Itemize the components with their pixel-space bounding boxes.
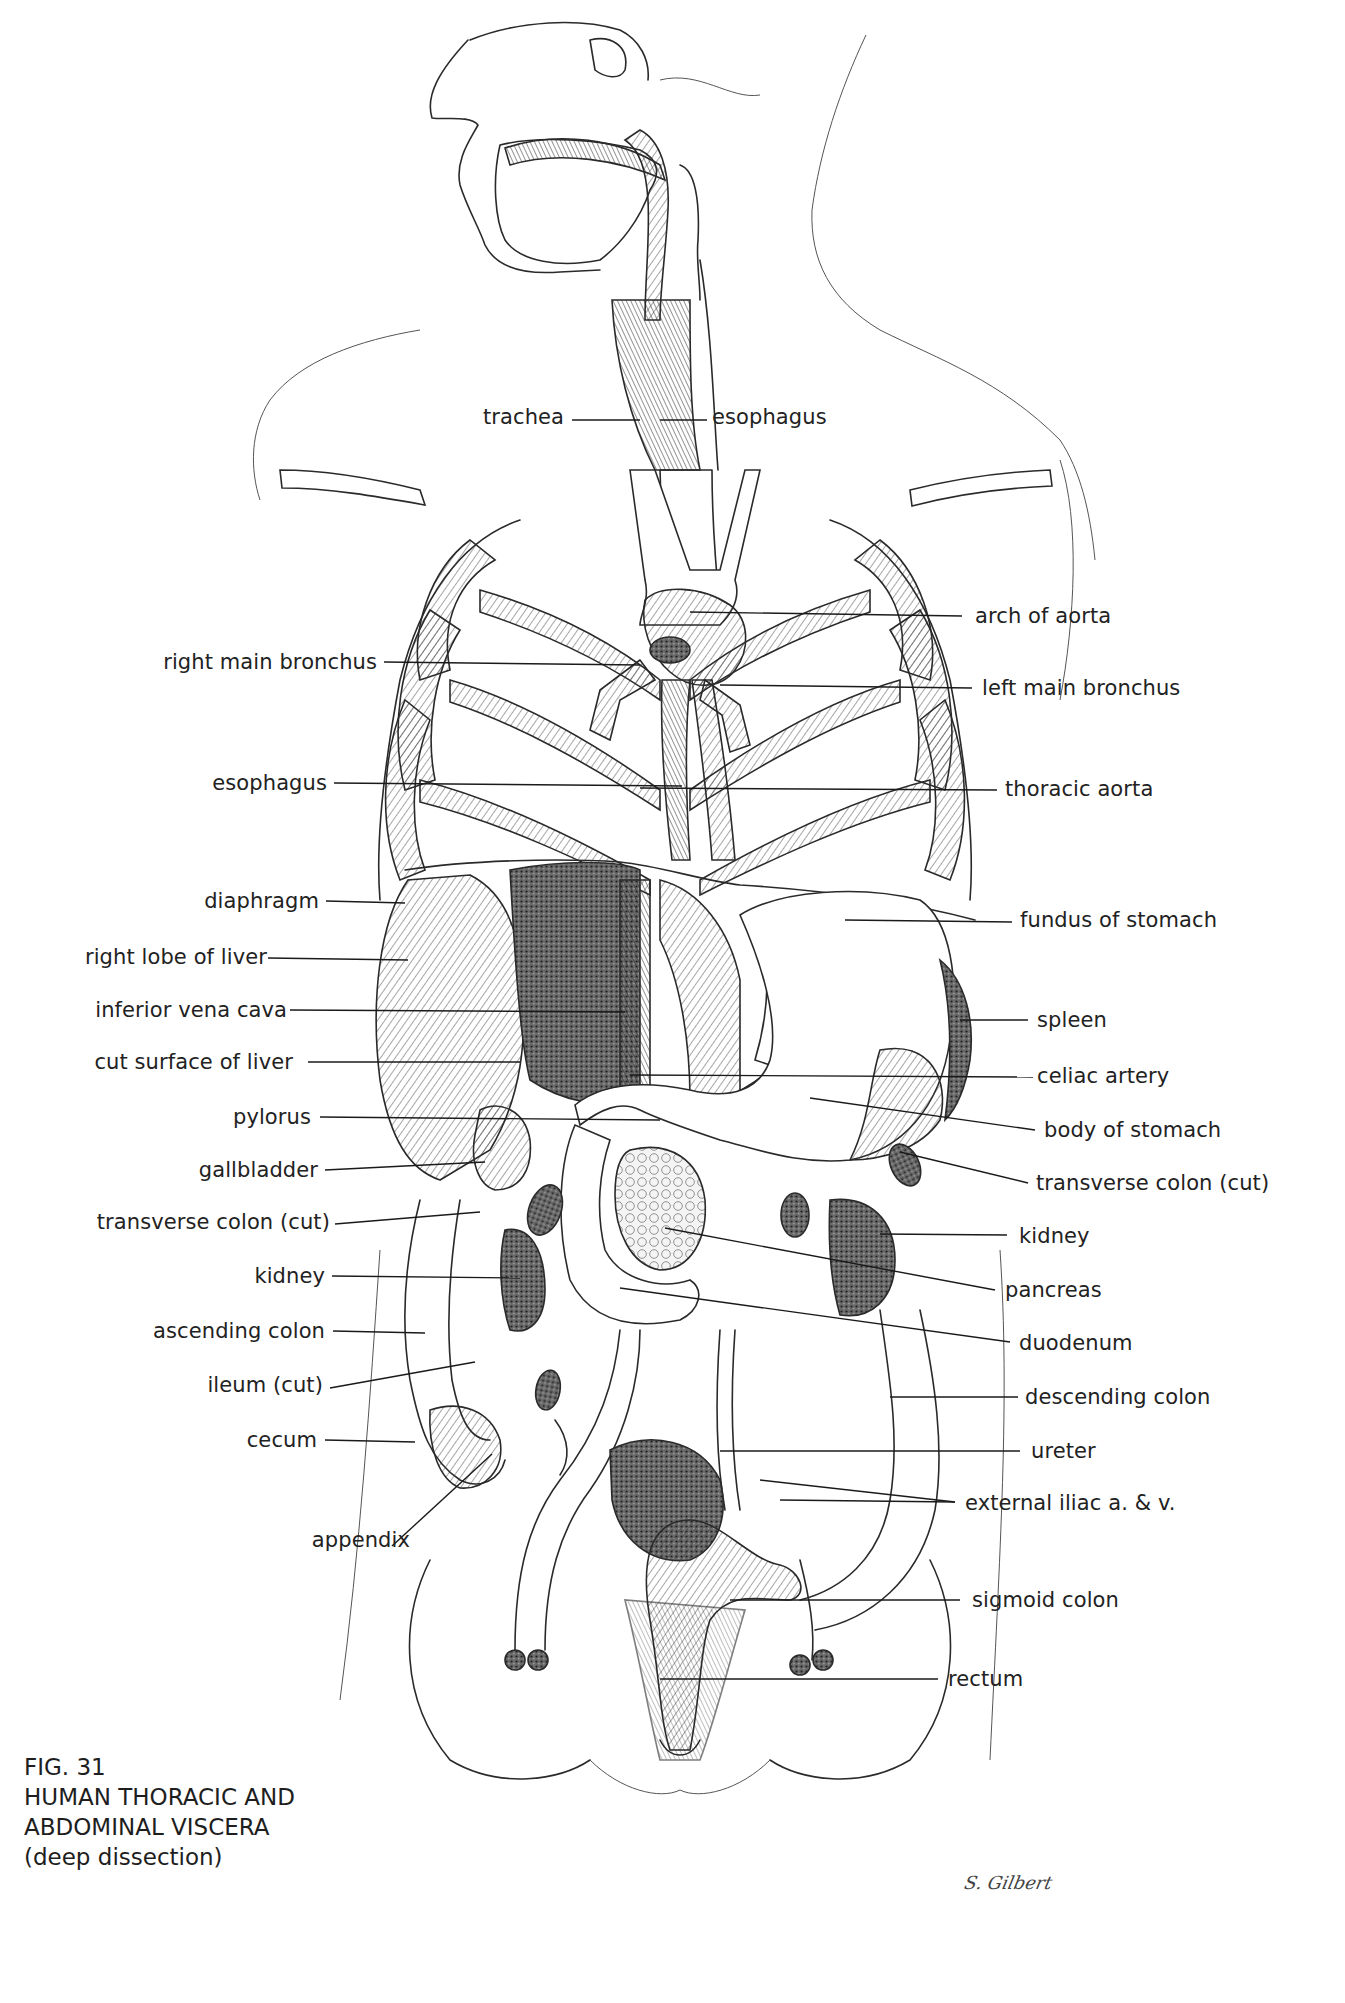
label-diaphragm: diaphragm (204, 889, 319, 913)
leader-line-external-iliac-v (780, 1500, 955, 1502)
figure-subtitle: (deep dissection) (24, 1842, 295, 1872)
label-descending-colon: descending colon (1025, 1385, 1210, 1409)
label-spleen: spleen (1037, 1008, 1107, 1032)
sigmoid-rectum (625, 1520, 801, 1760)
leader-line-transverse-colon-cut-left (335, 1212, 480, 1224)
leader-line-diaphragm (326, 901, 405, 903)
label-gallbladder: gallbladder (199, 1158, 318, 1182)
leader-line-kidney-left (332, 1276, 520, 1278)
leader-line-kidney-right (880, 1234, 1007, 1235)
label-esophagus-top: esophagus (712, 405, 827, 429)
label-arch-of-aorta: arch of aorta (975, 604, 1111, 628)
figure-caption: FIG. 31 HUMAN THORACIC AND ABDOMINAL VIS… (24, 1752, 295, 1872)
label-transverse-colon-cut-right: transverse colon (cut) (1036, 1171, 1269, 1195)
label-right-main-bronchus: right main bronchus (163, 650, 377, 674)
figure-number: FIG. 31 (24, 1752, 295, 1782)
label-celiac-artery: celiac artery (1037, 1064, 1169, 1088)
descending-colon-drawing (800, 1310, 939, 1630)
label-trachea: trachea (483, 405, 564, 429)
head-sagittal-section (430, 23, 760, 320)
ascending-colon-cecum (405, 1200, 567, 1488)
label-pylorus: pylorus (233, 1105, 311, 1129)
figure-title-line2: ABDOMINAL VISCERA (24, 1812, 295, 1842)
label-ileum-cut: ileum (cut) (207, 1373, 323, 1397)
label-duodenum: duodenum (1019, 1331, 1133, 1355)
label-transverse-colon-cut-left: transverse colon (cut) (97, 1210, 330, 1234)
label-left-main-bronchus: left main bronchus (982, 676, 1180, 700)
artist-signature: S. Gilbert (963, 1872, 1055, 1893)
leader-line-external-iliac-a (760, 1480, 955, 1502)
label-kidney-right: kidney (1019, 1224, 1090, 1248)
leader-line-cecum (325, 1440, 415, 1442)
label-fundus-of-stomach: fundus of stomach (1020, 908, 1217, 932)
label-esophagus: esophagus (212, 771, 327, 795)
label-ureter: ureter (1031, 1439, 1096, 1463)
label-appendix: appendix (312, 1528, 410, 1552)
label-right-lobe-of-liver: right lobe of liver (85, 945, 267, 969)
label-thoracic-aorta: thoracic aorta (1005, 777, 1153, 801)
label-inferior-vena-cava: inferior vena cava (95, 998, 287, 1022)
label-pancreas: pancreas (1005, 1278, 1102, 1302)
figure-title-line1: HUMAN THORACIC AND (24, 1782, 295, 1812)
label-cut-surface-of-liver: cut surface of liver (94, 1050, 293, 1074)
label-body-of-stomach: body of stomach (1044, 1118, 1221, 1142)
label-sigmoid-colon: sigmoid colon (972, 1588, 1119, 1612)
pancreas-drawing (615, 1147, 705, 1270)
label-cecum: cecum (247, 1428, 317, 1452)
label-ascending-colon: ascending colon (153, 1319, 325, 1343)
label-kidney-left: kidney (254, 1264, 325, 1288)
leader-line-ascending-colon (333, 1331, 425, 1333)
label-external-iliac: external iliac a. & v. (965, 1491, 1176, 1515)
label-rectum: rectum (948, 1667, 1023, 1691)
